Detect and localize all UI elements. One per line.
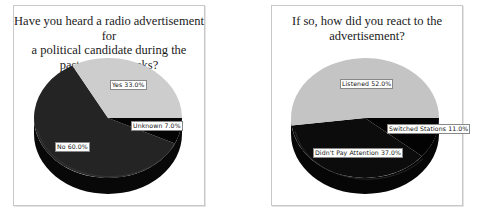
pie-chart bbox=[272, 6, 464, 207]
slice-label-switched-stations: Switched Stations 11.0% bbox=[387, 124, 470, 134]
slice-label-unknown: Unknown 7.0% bbox=[131, 121, 183, 131]
slice-listened bbox=[291, 58, 439, 125]
chart-panel-radio-ad-heard: Have you heard a radio advertisement for… bbox=[13, 5, 205, 206]
slice-label-didnt-pay-attention: Didn't Pay Attention 37.0% bbox=[313, 148, 403, 158]
slice-label-listened: Listened 52.0% bbox=[340, 79, 393, 89]
slice-label-no: No 60.0% bbox=[55, 142, 90, 152]
pie-chart bbox=[14, 6, 206, 207]
slice-label-yes: Yes 33.0% bbox=[110, 80, 147, 90]
chart-panel-reaction: If so, how did you react to the advertis… bbox=[271, 5, 463, 206]
